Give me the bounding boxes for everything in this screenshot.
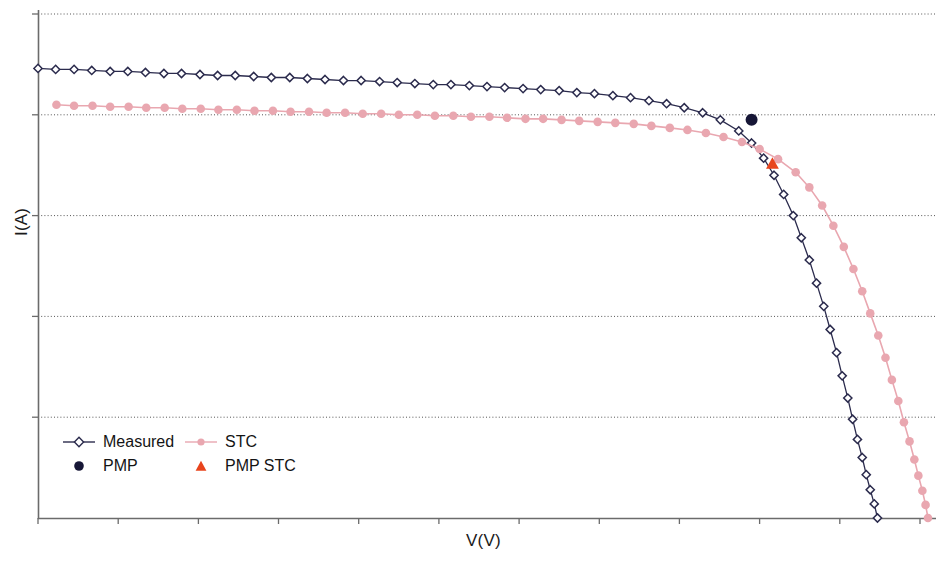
gridlines bbox=[38, 14, 936, 417]
chart-legend: Measured STC PMP bbox=[62, 430, 352, 478]
legend-item-pmp-stc: PMP STC bbox=[184, 457, 296, 475]
measured-line-marker-icon bbox=[62, 435, 96, 449]
pmp-stc-triangle-marker-icon bbox=[184, 459, 218, 473]
legend-label-stc: STC bbox=[225, 433, 257, 451]
pmp-circle-marker-icon bbox=[62, 459, 96, 473]
legend-label-measured: Measured bbox=[103, 433, 174, 451]
y-axis-title: I(A) bbox=[12, 208, 32, 236]
stc-line-marker-icon bbox=[184, 435, 218, 449]
legend-item-pmp: PMP bbox=[62, 457, 184, 475]
iv-curve-chart: I(A) V(V) Measured S bbox=[0, 0, 940, 571]
y-axis-ticks bbox=[32, 14, 38, 417]
legend-item-stc: STC bbox=[184, 433, 257, 451]
legend-label-pmp: PMP bbox=[103, 457, 138, 475]
legend-item-measured: Measured bbox=[62, 433, 184, 451]
plot-area bbox=[0, 0, 940, 571]
legend-row: PMP PMP STC bbox=[62, 454, 352, 478]
legend-row: Measured STC bbox=[62, 430, 352, 454]
legend-label-pmp-stc: PMP STC bbox=[225, 457, 296, 475]
x-axis-title: V(V) bbox=[466, 531, 501, 551]
point-pmp bbox=[746, 114, 758, 126]
